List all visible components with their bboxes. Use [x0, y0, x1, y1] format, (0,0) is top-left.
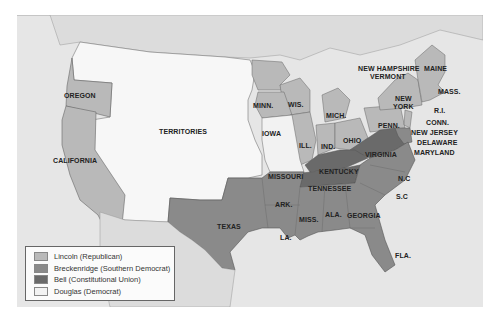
legend-swatch-breckenridge	[34, 264, 48, 273]
label-ohio: OHIO	[343, 137, 361, 144]
label-new-hampshire: NEW HAMPSHIRE	[358, 65, 420, 72]
label-penn: PENN.	[378, 122, 400, 129]
label-california: CALIFORNIA	[53, 157, 97, 164]
label-conn: CONN.	[426, 119, 449, 126]
label-new-jersey: NEW JERSEY	[411, 129, 458, 136]
label-minn: MINN.	[253, 102, 273, 109]
label-kentucky: KENTUCKY	[319, 168, 359, 175]
label-tennessee: TENNESSEE	[308, 185, 351, 192]
legend-swatch-douglas	[34, 287, 48, 296]
label-new-york-line2: YORK	[393, 103, 414, 111]
legend-item-lincoln: Lincoln (Republican)	[34, 251, 174, 263]
label-iowa: IOWA	[262, 130, 281, 137]
label-nc: N.C	[398, 175, 410, 182]
label-territories: TERRITORIES	[159, 128, 207, 135]
label-virginia: VIRGINIA	[365, 151, 397, 158]
label-missouri: MISSOURI	[268, 173, 303, 180]
legend-label-douglas: Douglas (Democrat)	[54, 287, 121, 296]
legend-label-breckenridge: Breckenridge (Southern Democrat)	[54, 264, 170, 273]
legend-item-bell: Bell (Constitutional Union)	[34, 274, 174, 286]
legend-swatch-lincoln	[34, 252, 48, 261]
legend-item-douglas: Douglas (Democrat)	[34, 286, 174, 298]
label-la: LA.	[280, 234, 292, 241]
label-georgia: GEORGIA	[347, 212, 381, 219]
label-fla: FLA.	[395, 252, 411, 259]
label-wis: WIS.	[288, 101, 304, 108]
legend-label-bell: Bell (Constitutional Union)	[54, 275, 141, 284]
label-delaware: DELAWARE	[417, 139, 457, 146]
label-ri: R.I.	[434, 107, 445, 114]
legend-swatch-bell	[34, 275, 48, 284]
label-mass: MASS.	[438, 88, 461, 95]
label-mich: MICH.	[326, 112, 346, 119]
label-texas: TEXAS	[217, 223, 241, 230]
label-oregon: OREGON	[64, 92, 96, 99]
label-sc: S.C	[396, 193, 408, 200]
legend-item-breckenridge: Breckenridge (Southern Democrat)	[34, 263, 174, 275]
state-indiana	[316, 123, 335, 155]
label-vermont: VERMONT	[370, 73, 406, 80]
label-maryland: MARYLAND	[414, 149, 455, 156]
label-maine: MAINE	[424, 65, 447, 72]
label-new-york-line1: NEW	[393, 95, 414, 103]
label-ala: ALA.	[325, 211, 342, 218]
state-new-jersey	[404, 110, 412, 128]
label-ark: ARK.	[275, 201, 293, 208]
label-ill: ILL.	[299, 142, 312, 149]
legend-label-lincoln: Lincoln (Republican)	[54, 252, 122, 261]
label-new-york: NEW YORK	[393, 95, 414, 111]
label-ind: IND.	[321, 143, 335, 150]
label-miss: MISS.	[299, 216, 319, 223]
map-legend: Lincoln (Republican) Breckenridge (South…	[25, 246, 175, 301]
